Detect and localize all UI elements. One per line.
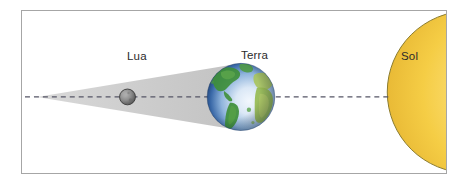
diagram-canvas bbox=[22, 11, 446, 173]
earth-body bbox=[207, 63, 275, 130]
diagram-frame: Lua Terra Sol bbox=[21, 10, 447, 174]
moon-body bbox=[120, 89, 136, 105]
label-terra: Terra bbox=[241, 50, 268, 62]
label-lua: Lua bbox=[127, 51, 147, 63]
label-sol: Sol bbox=[401, 51, 418, 63]
eclipse-diagram: Lua Terra Sol bbox=[0, 0, 468, 190]
sun-body bbox=[387, 11, 446, 173]
